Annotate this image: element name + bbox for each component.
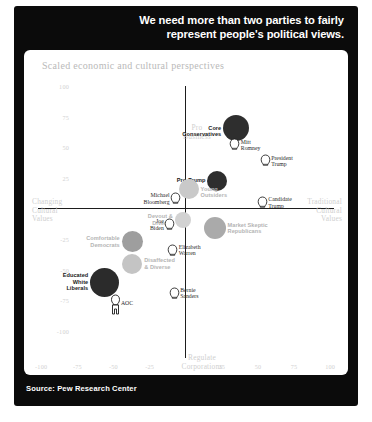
scatter-plot: Scaled economic and cultural perspective… <box>24 50 348 375</box>
person-label: Joe Biden <box>130 218 164 231</box>
person-marker <box>169 286 180 304</box>
person-marker <box>164 217 175 235</box>
infographic-frame: We need more than two parties to fairly … <box>14 6 358 406</box>
bubble-group <box>122 231 143 252</box>
y-tick-75: 75 <box>47 114 69 121</box>
person-head-icon <box>169 287 180 300</box>
bubble-label: Young Outsiders <box>201 186 245 199</box>
axis-caption-left: Changing Cultural Values <box>32 198 78 224</box>
bubble-group <box>204 217 226 239</box>
headline: We need more than two parties to fairly … <box>14 14 358 41</box>
person-head-icon <box>170 192 181 205</box>
bubble-label: Core Conservatives <box>177 125 221 138</box>
chart-card: Scaled economic and cultural perspective… <box>24 50 348 375</box>
person-head-icon <box>229 138 240 151</box>
y-tick--100: -100 <box>47 328 69 335</box>
person-head-icon <box>167 244 178 257</box>
bubble-group <box>175 212 191 228</box>
x-tick--50: -50 <box>101 363 125 370</box>
person-label: AOC <box>121 300 133 306</box>
y-tick-25: 25 <box>47 175 69 182</box>
chart-title: Scaled economic and cultural perspective… <box>42 60 224 71</box>
person-label: Elizabeth Warren <box>179 244 201 257</box>
x-tick-25: 25 <box>210 363 234 370</box>
bubble-group <box>122 254 142 274</box>
person-label: Mitt Romney <box>241 139 261 152</box>
person-head-icon <box>257 196 268 209</box>
person-label: President Trump <box>271 155 293 168</box>
person-marker <box>167 243 178 261</box>
person-head-icon <box>260 154 271 167</box>
bubble-label: Educated White Liberals <box>44 272 88 292</box>
bubble-group <box>179 179 199 199</box>
y-tick--25: -25 <box>47 236 69 243</box>
x-tick-100: 100 <box>318 363 342 370</box>
person-label: Candidate Trump <box>268 196 292 209</box>
x-tick--100: -100 <box>29 363 53 370</box>
x-tick-75: 75 <box>282 363 306 370</box>
person-marker <box>229 137 240 155</box>
person-marker <box>109 294 122 320</box>
bubble-label: Comfortable Democrats <box>76 235 120 248</box>
bubble-label: Market Skeptic Republicans <box>228 222 272 235</box>
y-tick-50: 50 <box>47 144 69 151</box>
y-tick-100: 100 <box>47 83 69 90</box>
person-marker <box>170 191 181 209</box>
person-marker <box>257 195 268 213</box>
x-tick--75: -75 <box>65 363 89 370</box>
x-tick-50: 50 <box>246 363 270 370</box>
axis-caption-right: Traditional Cultural Values <box>292 198 342 224</box>
person-label: Michael Bloomberg <box>136 192 170 205</box>
x-tick--25: -25 <box>138 363 162 370</box>
bubble-group <box>90 268 119 297</box>
person-label: Bernie Sanders <box>180 287 198 300</box>
source-credit: Source: Pew Research Center <box>26 384 137 393</box>
headline-line-1: We need more than two parties to fairly <box>139 14 344 26</box>
y-tick--75: -75 <box>47 297 69 304</box>
headline-line-2: represent people's political views. <box>166 28 344 40</box>
person-head-icon <box>164 218 175 231</box>
person-marker <box>260 153 271 171</box>
